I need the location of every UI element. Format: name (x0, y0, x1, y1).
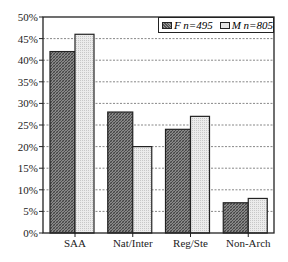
y-tick-label: 10% (2, 184, 38, 196)
legend-label-m: M n=805 (232, 19, 273, 31)
y-tick-label: 30% (2, 97, 38, 109)
y-tick-label: 5% (2, 205, 38, 217)
bar-m (191, 116, 210, 233)
chart-plot-area (0, 0, 288, 262)
y-tick-label: 35% (2, 76, 38, 88)
legend-swatch-m (220, 22, 230, 29)
y-tick-label: 25% (2, 119, 38, 131)
bar-f (108, 112, 133, 233)
bar-f (223, 203, 248, 233)
legend-swatch-f (162, 22, 172, 29)
x-category-label: Non-Arch (213, 237, 283, 249)
bar-m (133, 147, 152, 233)
y-tick-label: 40% (2, 54, 38, 66)
bar-m (248, 198, 267, 233)
legend-label-f: F n=495 (174, 19, 213, 31)
y-tick-label: 50% (2, 11, 38, 23)
y-tick-label: 45% (2, 33, 38, 45)
y-tick-label: 20% (2, 141, 38, 153)
bars (50, 34, 267, 233)
bar-m (75, 34, 94, 233)
y-tick-label: 15% (2, 162, 38, 174)
bar-chart: 0%5%10%15%20%25%30%35%40%45%50% SAANat/I… (0, 0, 288, 262)
bar-f (50, 52, 75, 233)
legend: F n=495 M n=805 (158, 17, 274, 33)
bar-f (166, 129, 191, 233)
y-tick-label: 0% (2, 227, 38, 239)
